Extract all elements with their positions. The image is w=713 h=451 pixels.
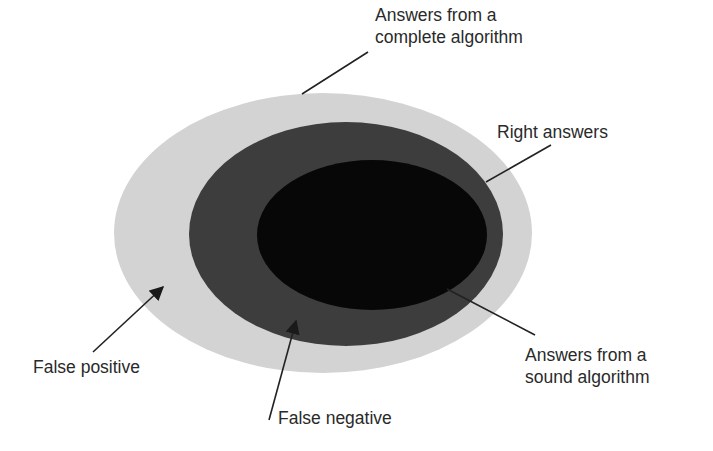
complete-leader-line	[302, 52, 368, 94]
complete-algorithm-label-line2: complete algorithm	[375, 27, 523, 48]
false-positive-label-text: False positive	[33, 357, 140, 378]
complete-algorithm-label-line1: Answers from a	[375, 5, 523, 26]
right-answers-label-text: Right answers	[497, 122, 608, 143]
false-negative-label-text: False negative	[278, 408, 392, 429]
false-positive-arrow	[93, 287, 163, 352]
sound-algorithm-label-line1: Answers from a	[525, 345, 650, 366]
sound-algorithm-label-line2: sound algorithm	[525, 367, 650, 388]
sound-algorithm-region	[257, 160, 487, 310]
sound-algorithm-label: Answers from a sound algorithm	[525, 345, 650, 388]
right-answers-label: Right answers	[497, 122, 608, 143]
false-positive-label: False positive	[33, 357, 140, 378]
false-negative-label: False negative	[278, 408, 392, 429]
complete-algorithm-label: Answers from a complete algorithm	[375, 5, 523, 48]
